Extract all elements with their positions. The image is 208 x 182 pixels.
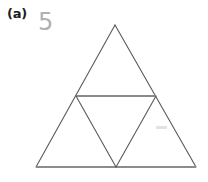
triangle-diagram — [0, 0, 208, 182]
faint-pencil-dash-mark — [156, 126, 167, 129]
inner-right-edge — [116, 96, 156, 167]
annotation-digit: 5 — [38, 10, 53, 34]
inner-left-edge — [76, 96, 116, 167]
panel-label: (a) — [7, 7, 27, 20]
